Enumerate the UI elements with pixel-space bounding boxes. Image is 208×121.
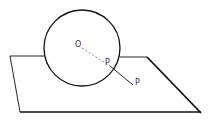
sphere-plane-diagram: O P P	[0, 0, 208, 121]
plane-right-edge	[147, 57, 201, 113]
plane-top-left-edge	[10, 56, 44, 112]
label-point-P-external: P	[135, 78, 140, 87]
normal-line	[110, 66, 133, 85]
label-point-P-tangent: P	[105, 58, 110, 67]
label-center-O: O	[75, 40, 81, 49]
